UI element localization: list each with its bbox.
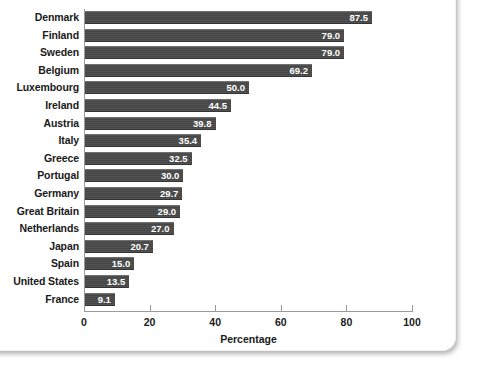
bar: 44.5 [85, 99, 231, 112]
category-label: Germany [34, 185, 79, 203]
bar-value-label: 20.7 [130, 241, 149, 254]
bar: 13.5 [85, 275, 129, 288]
x-axis-tick-label: 0 [64, 316, 104, 328]
x-axis-line [84, 311, 413, 312]
bar: 29.7 [85, 187, 182, 200]
bar-row: France9.1 [84, 291, 413, 309]
bar-row: Portugal30.0 [84, 167, 413, 185]
category-label: United States [13, 273, 79, 291]
bar-value-label: 39.8 [193, 118, 212, 131]
bar: 9.1 [85, 293, 115, 306]
bar: 79.0 [85, 29, 344, 42]
bar-row: Ireland44.5 [84, 97, 413, 115]
bar: 15.0 [85, 257, 134, 270]
bar-value-label: 79.0 [322, 47, 341, 60]
category-label: France [45, 291, 79, 309]
category-label: Greece [44, 150, 79, 168]
category-label: Austria [44, 115, 79, 133]
x-axis-tick-label: 40 [195, 316, 235, 328]
x-axis-tick [412, 305, 413, 312]
bar-value-label: 50.0 [227, 82, 246, 95]
bar-row: United States13.5 [84, 273, 413, 291]
x-axis-tick [84, 305, 85, 312]
bar: 79.0 [85, 46, 344, 59]
category-label: Belgium [38, 62, 79, 80]
bar: 29.0 [85, 205, 180, 218]
category-label: Netherlands [19, 220, 79, 238]
bar: 35.4 [85, 134, 201, 147]
screenshot-root: Denmark87.5Finland79.0Sweden79.0Belgium6… [0, 0, 478, 371]
x-axis-tick [281, 305, 282, 312]
bar: 87.5 [85, 11, 372, 24]
bar-value-label: 87.5 [350, 12, 369, 25]
x-axis-tick-label: 20 [130, 316, 170, 328]
x-axis-tick [215, 305, 216, 312]
category-label: Japan [49, 238, 79, 256]
x-axis-tick-label: 60 [261, 316, 301, 328]
x-axis-tick-label: 100 [392, 316, 432, 328]
bar-value-label: 15.0 [112, 258, 131, 271]
category-label: Italy [58, 132, 79, 150]
bar-row: Netherlands27.0 [84, 220, 413, 238]
category-label: Portugal [37, 167, 79, 185]
bar: 50.0 [85, 81, 249, 94]
bar: 20.7 [85, 240, 153, 253]
bar-value-label: 79.0 [322, 30, 341, 43]
bar-value-label: 29.7 [160, 188, 179, 201]
bar-row: Greece32.5 [84, 150, 413, 168]
bar-row: Great Britain29.0 [84, 203, 413, 221]
bar-value-label: 29.0 [158, 206, 177, 219]
bar-row: Germany29.7 [84, 185, 413, 203]
category-label: Spain [51, 255, 79, 273]
bar: 39.8 [85, 117, 216, 130]
bar-row: Finland79.0 [84, 27, 413, 45]
bar-rows: Denmark87.5Finland79.0Sweden79.0Belgium6… [84, 9, 413, 311]
bar-row: Italy35.4 [84, 132, 413, 150]
x-axis-tick [150, 305, 151, 312]
category-label: Great Britain [17, 203, 79, 221]
bar-row: Sweden79.0 [84, 44, 413, 62]
category-label: Ireland [45, 97, 79, 115]
bar-value-label: 13.5 [107, 276, 126, 289]
bar-value-label: 27.0 [151, 223, 170, 236]
x-axis-tick-label: 80 [326, 316, 366, 328]
bar-value-label: 32.5 [169, 153, 188, 166]
bar-row: Denmark87.5 [84, 9, 413, 27]
bar-row: Spain15.0 [84, 255, 413, 273]
bar: 69.2 [85, 64, 312, 77]
bar-row: Belgium69.2 [84, 62, 413, 80]
x-axis-tick [346, 305, 347, 312]
bar-value-label: 44.5 [208, 100, 227, 113]
bar: 32.5 [85, 152, 192, 165]
bar-value-label: 35.4 [179, 135, 198, 148]
x-axis-title: Percentage [84, 333, 413, 345]
bar: 30.0 [85, 169, 183, 182]
category-label: Luxembourg [16, 79, 79, 97]
bar-row: Luxembourg50.0 [84, 79, 413, 97]
bar-value-label: 69.2 [289, 65, 308, 78]
bar-value-label: 30.0 [161, 170, 180, 183]
bar: 27.0 [85, 222, 174, 235]
bar-value-label: 9.1 [98, 294, 111, 307]
category-label: Sweden [40, 44, 79, 62]
bar-row: Japan20.7 [84, 238, 413, 256]
category-label: Denmark [35, 9, 79, 27]
category-label: Finland [42, 27, 79, 45]
bar-chart: Denmark87.5Finland79.0Sweden79.0Belgium6… [0, 0, 478, 371]
bar-row: Austria39.8 [84, 115, 413, 133]
